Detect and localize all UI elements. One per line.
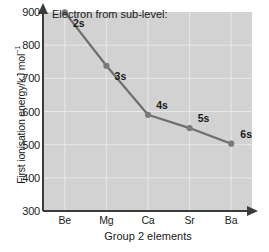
legend-caption: Electron from sub-level: <box>52 8 168 20</box>
x-axis-tick-label: Ba <box>225 214 238 226</box>
data-point-label: 3s <box>115 70 127 82</box>
data-point-marker <box>103 63 109 69</box>
y-axis-tick-label: 300 <box>0 205 40 217</box>
ionisation-energy-chart-figure: 300400500600700800900 BeMgCaSrBa 2s3s4s5… <box>0 0 269 252</box>
y-axis-tick-label: 900 <box>0 6 40 18</box>
data-point-marker <box>145 112 151 118</box>
x-axis-tick-label: Be <box>58 214 71 226</box>
data-point-label: 5s <box>198 112 210 124</box>
x-axis-title: Group 2 elements <box>44 230 252 242</box>
y-axis-line <box>42 12 44 211</box>
x-axis-arrow-icon <box>247 206 258 216</box>
y-axis-title-text: First ionisation energy/kJ mol <box>15 54 27 184</box>
plot-area <box>44 12 252 211</box>
x-axis-tick-label: Ca <box>141 214 154 226</box>
data-point-label: 4s <box>156 99 168 111</box>
data-point-label: 6s <box>240 128 252 140</box>
data-point-marker <box>187 125 193 131</box>
x-axis-line <box>43 210 248 212</box>
y-axis-title-exponent: −1 <box>13 46 22 54</box>
series-line-and-markers <box>44 12 252 211</box>
x-axis-tick-label: Sr <box>184 214 194 226</box>
y-axis-title: First ionisation energy/kJ mol−1 <box>13 25 27 205</box>
x-axis-tick-label: Mg <box>99 214 113 226</box>
data-point-marker <box>228 141 234 147</box>
